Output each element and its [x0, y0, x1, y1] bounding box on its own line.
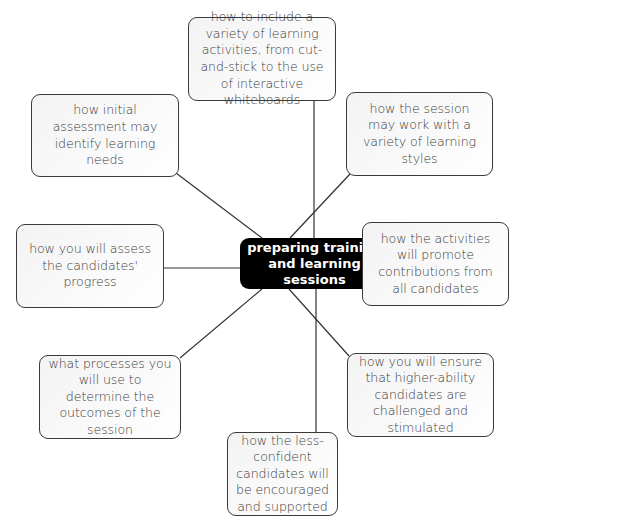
node-outcomes-processes: what processes you will use to determine…: [39, 355, 181, 439]
node-learning-styles: how the session may work with a variety …: [346, 92, 493, 176]
node-label: how the session may work with a variety …: [355, 101, 484, 167]
node-assess-progress: how you will assess the candidates' prog…: [16, 224, 164, 308]
node-initial-assessment: how initial assessment may identify lear…: [31, 94, 179, 177]
node-label: how initial assessment may identify lear…: [40, 102, 170, 168]
link-bottom-right: [289, 289, 349, 356]
node-label: how to include a variety of learning act…: [197, 9, 327, 109]
link-bottom-left: [180, 289, 262, 358]
node-label: how you will ensure that higher-ability …: [356, 354, 485, 437]
node-promote-contributions: how the activities will promote contribu…: [362, 222, 509, 306]
node-less-confident: how the less-confident candidates will b…: [227, 432, 338, 516]
node-label: how you will assess the candidates' prog…: [25, 241, 155, 291]
node-label: what processes you will use to determine…: [48, 356, 172, 439]
node-learning-activities: how to include a variety of learning act…: [188, 17, 336, 101]
link-top-left: [176, 173, 262, 238]
link-top-right: [290, 174, 350, 238]
node-label: how the activities will promote contribu…: [371, 231, 500, 297]
node-label: how the less-confident candidates will b…: [236, 433, 329, 516]
node-higher-ability: how you will ensure that higher-ability …: [347, 353, 494, 437]
